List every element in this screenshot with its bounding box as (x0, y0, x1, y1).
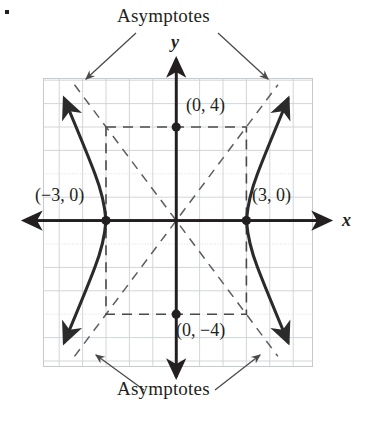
label-asymptotes-bottom: Asymptotes (117, 378, 210, 400)
label-covertex-bottom: (0, −4) (176, 320, 225, 341)
label-vertex-right: (3, 0) (252, 185, 291, 206)
leader-asymptote-top-right (218, 33, 268, 79)
label-vertex-left: (−3, 0) (35, 185, 84, 206)
label-x-axis: x (342, 210, 351, 231)
leader-asymptote-top-left (86, 33, 136, 79)
hyperbola-figure: Asymptotes Asymptotes y x (−3, 0) (3, 0)… (0, 0, 369, 424)
point-vertex-left (101, 216, 110, 225)
point-covertex-bottom (172, 310, 181, 319)
point-covertex-top (172, 122, 181, 131)
label-asymptotes-top: Asymptotes (117, 5, 210, 27)
label-covertex-top: (0, 4) (186, 95, 225, 116)
label-y-axis: y (171, 32, 179, 53)
graph-canvas (0, 0, 369, 424)
point-vertex-right (242, 216, 251, 225)
